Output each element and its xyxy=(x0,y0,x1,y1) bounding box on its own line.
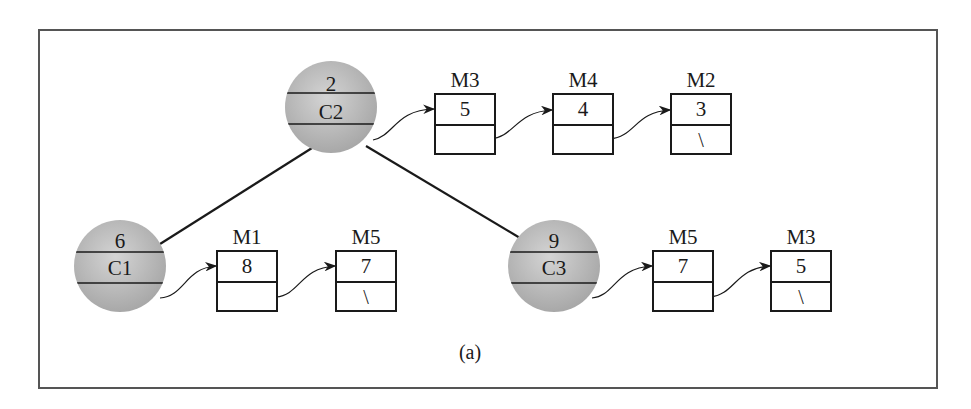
list-label: M5 xyxy=(331,226,401,248)
pointer-c2-m3 xyxy=(373,109,434,140)
cell-value: 4 xyxy=(554,95,612,126)
node-c2: 2 C2 xyxy=(285,61,377,153)
cell-next xyxy=(654,283,712,312)
pointer-m3-m4 xyxy=(490,110,552,139)
list-label: M5 xyxy=(648,226,718,248)
list-label: M2 xyxy=(666,69,736,91)
node-key: 9 xyxy=(508,230,600,252)
node-key: 6 xyxy=(74,230,166,252)
node-name: C2 xyxy=(285,101,377,123)
pointer-m5-m3 xyxy=(710,266,770,297)
cell-next: \ xyxy=(337,283,395,312)
cell-next: \ xyxy=(772,283,830,312)
cell-value: 5 xyxy=(772,252,830,283)
node-c1: 6 C1 xyxy=(74,220,166,312)
cell-value: 7 xyxy=(654,252,712,283)
cell-value: 3 xyxy=(672,95,730,126)
list-cell: 3 \ xyxy=(670,93,732,155)
cell-value: 5 xyxy=(436,95,494,126)
list-cell: 5 xyxy=(434,93,496,155)
list-label: M3 xyxy=(430,69,500,91)
pointer-c1-m1 xyxy=(160,266,216,298)
list-cell: 7 xyxy=(652,250,714,312)
cell-value: 8 xyxy=(218,252,276,283)
list-cell: 8 xyxy=(216,250,278,312)
list-label: M1 xyxy=(212,226,282,248)
pointer-m1-m5 xyxy=(276,266,335,297)
list-cell: 7 \ xyxy=(335,250,397,312)
pointer-m4-m2 xyxy=(610,110,670,139)
node-name: C1 xyxy=(74,257,166,279)
list-cell: 4 xyxy=(552,93,614,155)
pointer-c3-m5 xyxy=(592,266,652,298)
cell-next xyxy=(436,126,494,155)
list-cell: 5 \ xyxy=(770,250,832,312)
cell-next xyxy=(218,283,276,312)
node-c3: 9 C3 xyxy=(508,220,600,312)
cell-next: \ xyxy=(672,126,730,155)
cell-value: 7 xyxy=(337,252,395,283)
list-label: M4 xyxy=(548,69,618,91)
cell-next xyxy=(554,126,612,155)
edge-c2-c3 xyxy=(366,146,520,238)
node-key: 2 xyxy=(285,73,377,95)
node-name: C3 xyxy=(508,257,600,279)
figure-caption: (a) xyxy=(440,341,500,364)
list-label: M3 xyxy=(766,226,836,248)
